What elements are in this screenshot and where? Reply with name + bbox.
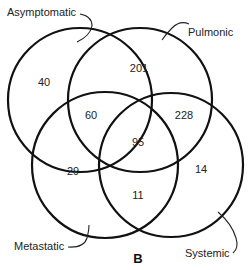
asymptomatic-circle — [8, 28, 152, 172]
metastatic-label: Metastatic — [14, 240, 65, 252]
region-pulmonic-only: 201 — [130, 62, 148, 74]
metastatic-circle — [32, 92, 178, 238]
venn-diagram: Asymptomatic Pulmonic Metastatic Systemi… — [0, 0, 249, 270]
region-228: 228 — [175, 109, 193, 121]
pulmonic-label: Pulmonic — [188, 26, 234, 38]
region-center: 95 — [132, 136, 144, 148]
asymptomatic-label: Asymptomatic — [7, 6, 77, 18]
region-60: 60 — [85, 109, 97, 121]
systemic-label: Systemic — [185, 247, 230, 259]
region-metastatic-systemic: 11 — [132, 189, 143, 201]
panel-label: B — [133, 251, 142, 266]
region-systemic-only: 14 — [195, 163, 207, 175]
region-metastatic-only: 29 — [67, 165, 79, 177]
region-asymptomatic-only: 40 — [38, 76, 50, 88]
